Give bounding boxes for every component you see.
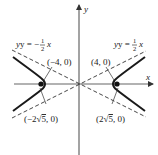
x-axis-label: x [145, 72, 150, 82]
svg-text:(−2√5, 0): (−2√5, 0) [24, 114, 58, 124]
left-vertex-label: (−4, 0) [47, 57, 72, 67]
svg-text:1: 1 [133, 37, 136, 44]
svg-text:x: x [138, 39, 143, 49]
right-vertex-label: (4, 0) [91, 57, 111, 67]
asymptote-label-positive: yy = 1 2 x [113, 37, 143, 52]
y-axis-label: y [83, 4, 88, 14]
svg-text:yy =: yy = [113, 39, 130, 49]
svg-text:x: x [46, 39, 51, 49]
svg-text:yy = −: yy = − [15, 39, 39, 49]
svg-text:2: 2 [41, 45, 44, 52]
svg-text:(2√5, 0): (2√5, 0) [96, 114, 125, 124]
svg-text:1: 1 [41, 37, 44, 44]
hyperbola-diagram: x y yy = − 1 2 x yy = 1 2 x (−4, 0) (4, … [0, 0, 158, 155]
left-vertex-leader [44, 67, 52, 80]
right-focus-point [114, 81, 119, 86]
left-focus-leader [40, 88, 46, 104]
right-focus-label: (2√5, 0) [96, 114, 125, 124]
left-focus-point [38, 81, 43, 86]
right-focus-leader [112, 88, 118, 104]
left-focus-label: (−2√5, 0) [24, 114, 58, 124]
asymptote-label-negative: yy = − 1 2 x [15, 37, 51, 52]
right-vertex-leader [106, 67, 114, 80]
svg-text:2: 2 [133, 45, 136, 52]
